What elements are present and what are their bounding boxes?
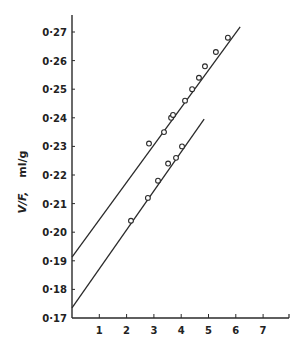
fit-line-upper <box>72 27 240 257</box>
data-point-lower <box>180 144 185 149</box>
data-point-upper <box>183 98 188 103</box>
x-tick-label: 2 <box>123 325 130 336</box>
y-axis-ticks: 0·170·180·190·200·210·220·230·240·250·26… <box>42 27 75 324</box>
y-tick-label: 0·21 <box>42 199 67 210</box>
y-axis-label: V/F, ml/g <box>16 151 29 214</box>
data-point-upper <box>190 87 195 92</box>
data-point-lower <box>129 218 134 223</box>
axes <box>72 15 289 318</box>
data-point-upper <box>171 113 176 118</box>
data-point-lower <box>145 195 150 200</box>
x-tick-label: 1 <box>96 325 103 336</box>
x-tick-label: 7 <box>260 325 267 336</box>
y-tick-label: 0·23 <box>42 141 67 152</box>
y-tick-label: 0·26 <box>42 56 67 67</box>
x-tick-label: 3 <box>150 325 157 336</box>
y-tick-label: 0·25 <box>42 84 67 95</box>
y-tick-label: 0·24 <box>42 113 67 124</box>
y-tick-label: 0·20 <box>42 227 67 238</box>
chart: 0·170·180·190·200·210·220·230·240·250·26… <box>0 0 303 349</box>
y-axis-label-units: ml/g <box>16 151 29 178</box>
y-tick-label: 0·18 <box>42 284 67 295</box>
data-point-upper <box>147 141 152 146</box>
data-point-upper <box>197 75 202 80</box>
fit-lines <box>72 27 240 308</box>
y-tick-label: 0·19 <box>42 256 67 267</box>
data-point-lower <box>156 178 161 183</box>
data-point-upper <box>213 50 218 55</box>
y-tick-label: 0·27 <box>42 27 67 38</box>
y-tick-label: 0·17 <box>42 313 67 324</box>
y-axis-label-quantity: V/F, <box>16 192 29 214</box>
data-point-upper <box>225 35 230 40</box>
data-points <box>129 35 231 223</box>
x-tick-label: 4 <box>178 325 185 336</box>
data-point-lower <box>174 155 179 160</box>
x-tick-label: 6 <box>232 325 239 336</box>
data-point-upper <box>203 64 208 69</box>
data-point-upper <box>162 130 167 135</box>
x-tick-label: 5 <box>205 325 212 336</box>
data-point-lower <box>166 161 171 166</box>
y-tick-label: 0·22 <box>42 170 67 181</box>
